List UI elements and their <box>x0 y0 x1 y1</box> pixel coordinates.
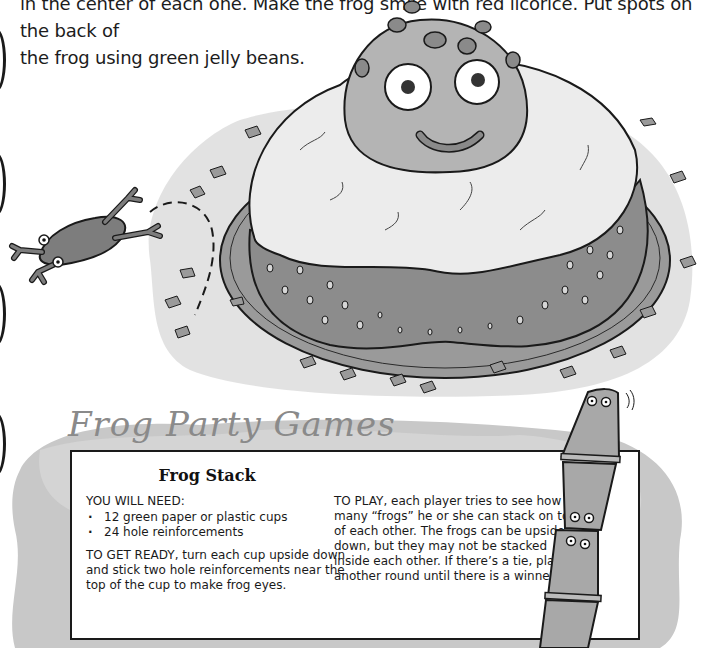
get-ready-text: TO GET READY, turn each cup upside down … <box>86 548 348 593</box>
section-title: Frog Party Games <box>68 404 396 444</box>
supply-item: 24 hole reinforcements <box>86 525 348 540</box>
supplies-list: 12 green paper or plastic cups 24 hole r… <box>86 510 348 540</box>
frog-cake-illustration <box>0 0 713 410</box>
game-title: Frog Stack <box>72 466 342 485</box>
need-label: YOU WILL NEED: <box>86 494 348 509</box>
to-play-text: TO PLAY, each player tries to see how ma… <box>334 494 584 584</box>
game-setup-column: YOU WILL NEED: 12 green paper or plastic… <box>86 494 348 593</box>
game-box-frog-stack: Frog Stack YOU WILL NEED: 12 green paper… <box>70 450 640 640</box>
book-page: in the center of each one. Make the frog… <box>0 0 713 648</box>
supply-item: 12 green paper or plastic cups <box>86 510 348 525</box>
jumping-frog <box>12 190 160 282</box>
game-play-column: TO PLAY, each player tries to see how ma… <box>334 494 584 584</box>
